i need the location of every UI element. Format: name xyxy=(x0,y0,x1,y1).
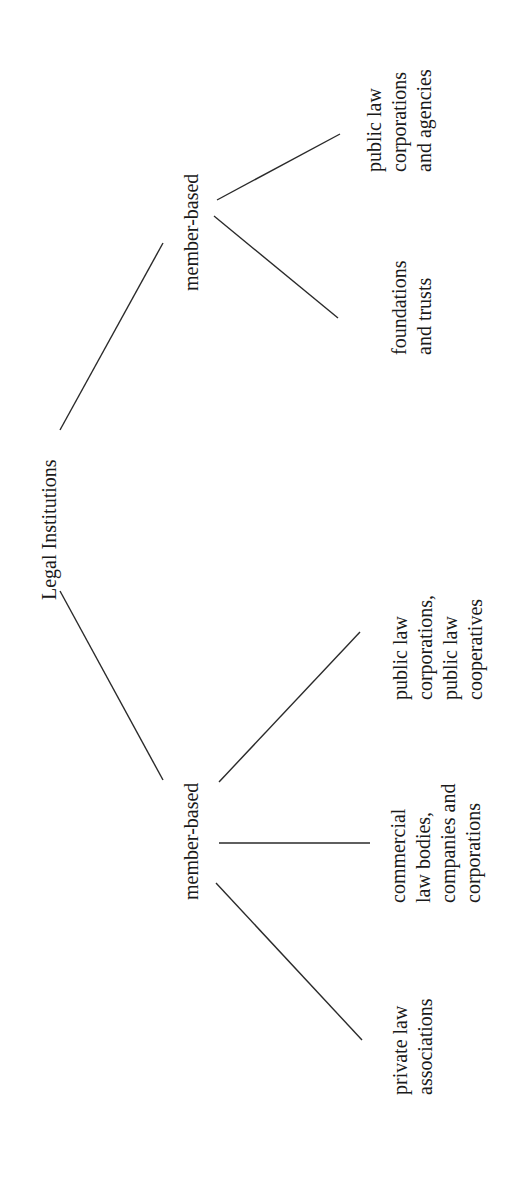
edge-lower-to-public-law-cooperatives xyxy=(219,632,360,782)
branch-node-label-upper: member-based xyxy=(179,174,204,291)
leaf-private-law-associations: private law associations xyxy=(388,998,438,1095)
tree-diagram: Legal Institutions member-based member-b… xyxy=(0,0,519,1190)
branch-node-label-lower: member-based xyxy=(179,783,204,900)
leaf-public-law-cooperatives: public law corporations, public law coop… xyxy=(388,595,488,700)
root-node-label: Legal Institutions xyxy=(37,459,62,600)
edge-root-to-upper-branch xyxy=(60,243,163,430)
edge-upper-to-foundations xyxy=(214,216,338,318)
edge-upper-to-public-law-agencies xyxy=(217,134,340,200)
leaf-foundations-and-trusts: foundations and trusts xyxy=(387,261,437,355)
leaf-public-law-corporations-and-agencies: public law corporations and agencies xyxy=(362,69,437,172)
edge-lower-to-private-law xyxy=(216,883,362,1040)
leaf-commercial-law-bodies: commercial law bodies, companies and cor… xyxy=(386,784,486,903)
edge-root-to-lower-branch xyxy=(60,591,163,780)
